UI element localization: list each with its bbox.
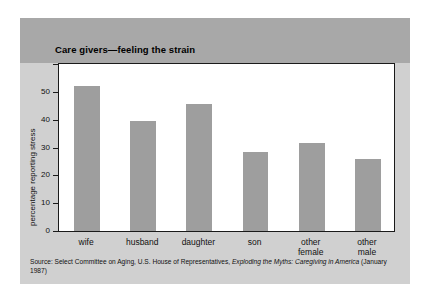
x-axis-tick-label: other male <box>339 237 395 257</box>
bar <box>130 121 156 231</box>
y-axis-tick-label: 40 <box>34 115 50 124</box>
x-axis-tick-label: husband <box>114 237 170 247</box>
source-publication-title: Exploding the Myths: Caregiving in Ameri… <box>232 258 359 265</box>
y-axis-tick-label: 20 <box>34 170 50 179</box>
chart-title: Care givers—feeling the strain <box>55 44 195 55</box>
bar <box>355 159 381 231</box>
y-axis-tick-label: 30 <box>34 143 50 152</box>
y-axis-tick-label: 50 <box>34 87 50 96</box>
chart-panel: Care givers—feeling the strain percentag… <box>20 18 410 284</box>
x-axis-tick-label: other female <box>283 237 339 257</box>
figure-container: Care givers—feeling the strain percentag… <box>0 0 430 302</box>
bar <box>299 143 325 231</box>
y-axis-tick-label: 10 <box>34 198 50 207</box>
bar <box>74 86 100 231</box>
source-prefix: Source: Select Committee on Aging, U.S. … <box>30 258 232 265</box>
plot-area <box>59 64 394 231</box>
x-axis-tick-label: wife <box>58 237 114 247</box>
x-axis-tick-label: daughter <box>170 237 226 247</box>
x-axis-tick-label: son <box>227 237 283 247</box>
y-axis-tick-label: 0 <box>34 226 50 235</box>
title-band <box>20 18 410 63</box>
plot-frame <box>58 63 395 232</box>
source-caption: Source: Select Committee on Aging, U.S. … <box>30 258 402 275</box>
bar <box>186 104 212 231</box>
bar <box>243 152 269 231</box>
